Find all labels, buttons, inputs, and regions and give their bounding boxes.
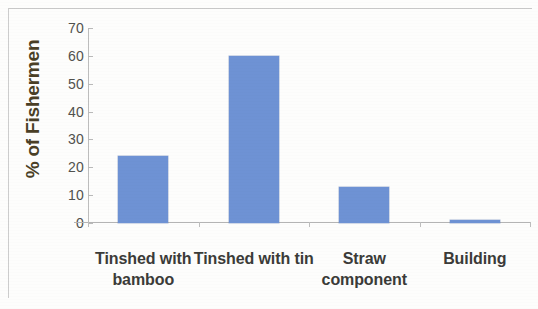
scan-frame-left-rule: [8, 8, 9, 298]
x-axis-category-label: Tinshed with bamboo: [80, 248, 207, 290]
y-axis-tick-label: 10: [42, 187, 84, 203]
bar: [229, 56, 279, 223]
y-axis-tick-label: 0: [42, 215, 84, 231]
x-axis-tick-mark: [420, 222, 421, 227]
scan-frame-top-rule: [8, 8, 532, 9]
y-axis-tick-mark: [88, 167, 93, 168]
x-axis-category-labels: Tinshed with bambooTinshed with tinStraw…: [74, 248, 534, 304]
bar-chart-figure: % of Fishermen 010203040506070 Tinshed w…: [0, 0, 538, 309]
y-axis-tick-mark: [88, 139, 93, 140]
y-axis-tick-label: 20: [42, 159, 84, 175]
y-axis-tick-label: 30: [42, 131, 84, 147]
y-axis-tick-label: 50: [42, 76, 84, 92]
x-axis-category-label: Building: [412, 248, 538, 269]
x-axis-category-label: Straw component: [301, 248, 428, 290]
x-axis-tick-mark: [530, 222, 531, 227]
plot-area: [88, 28, 530, 223]
bar: [450, 220, 500, 223]
x-axis-tick-mark: [199, 222, 200, 227]
bar: [118, 156, 168, 223]
y-axis-tick-label: 70: [42, 20, 84, 36]
x-axis-tick-mark: [88, 222, 89, 227]
y-axis-tick-mark: [88, 28, 93, 29]
y-axis-tick-mark: [88, 56, 93, 57]
y-axis-tick-label: 60: [42, 48, 84, 64]
y-axis-tick-mark: [88, 195, 93, 196]
x-axis-category-label: Tinshed with tin: [191, 248, 318, 269]
y-axis-tick-mark: [88, 112, 93, 113]
y-axis-tick-label: 40: [42, 104, 84, 120]
x-axis-tick-mark: [309, 222, 310, 227]
bar: [339, 187, 389, 223]
y-axis-tick-mark: [88, 84, 93, 85]
